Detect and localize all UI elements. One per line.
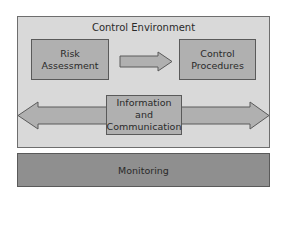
information-communication-line1: Information and — [107, 97, 182, 121]
monitoring-label: Monitoring — [118, 165, 169, 176]
risk-assessment-line1: Risk — [42, 48, 99, 60]
information-communication-box: Information and Communication — [106, 95, 182, 135]
risk-assessment-line2: Assessment — [42, 60, 99, 72]
control-procedures-box: Control Procedures — [179, 39, 256, 80]
risk-assessment-box: Risk Assessment — [31, 39, 109, 80]
right-arrow-icon — [120, 52, 172, 71]
information-communication-line2: Communication — [107, 121, 182, 133]
control-procedures-line2: Procedures — [191, 60, 244, 72]
monitoring-box: Monitoring — [17, 153, 270, 187]
control-procedures-line1: Control — [191, 48, 244, 60]
